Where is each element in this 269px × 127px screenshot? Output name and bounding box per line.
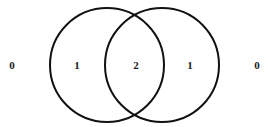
region-label-outside-left: 0 [9,60,15,71]
region-label-left-only: 1 [74,60,80,71]
region-label-right-only: 1 [187,60,193,71]
region-label-intersection: 2 [133,60,139,71]
venn-diagram: 0 1 2 1 0 [0,0,269,127]
region-label-outside-right: 0 [254,60,260,71]
